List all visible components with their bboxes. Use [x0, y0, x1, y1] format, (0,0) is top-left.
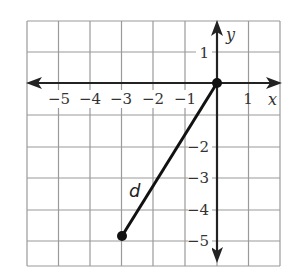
x-tick-neg1: −1 [174, 90, 196, 108]
endpoint-origin [212, 78, 222, 88]
x-axis [26, 77, 282, 89]
x-axis-label: x [268, 90, 277, 109]
y-tick-1: 1 [199, 44, 209, 62]
x-tick-neg4: −4 [79, 90, 101, 108]
y-tick-neg2: −2 [187, 138, 209, 156]
grid [27, 21, 280, 266]
endpoint-start [117, 231, 127, 241]
x-tick-neg2: −2 [142, 90, 164, 108]
x-tick-neg3: −3 [110, 90, 132, 108]
y-tick-neg5: −5 [187, 232, 209, 250]
y-tick-labels: 1 −2 −3 −4 −5 y [187, 25, 236, 250]
y-tick-neg4: −4 [187, 201, 209, 219]
y-axis [211, 20, 223, 263]
x-tick-neg5: −5 [48, 90, 70, 108]
segment-label: d [129, 180, 141, 201]
x-tick-labels: −5 −4 −3 −2 −1 1 x [38, 90, 277, 109]
y-axis-label: y [225, 25, 236, 44]
x-tick-1: 1 [243, 90, 253, 108]
coordinate-graph: −5 −4 −3 −2 −1 1 x 1 −2 −3 −4 −5 y d [0, 0, 299, 275]
y-tick-neg3: −3 [187, 169, 209, 187]
